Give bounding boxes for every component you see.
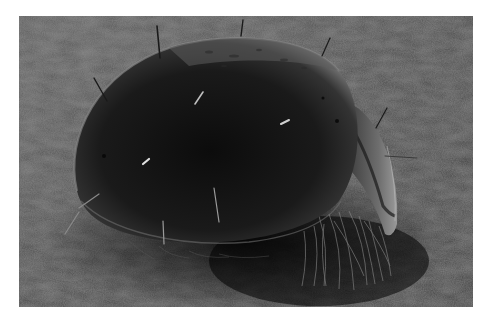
micrograph-frame [19,16,473,307]
mite-micrograph [19,16,473,307]
